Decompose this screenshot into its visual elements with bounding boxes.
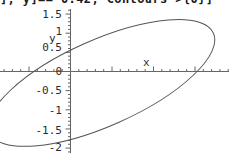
y-tick-label--1.5: -1.5 xyxy=(26,125,62,136)
y-tick-label-0.5: 0.5 xyxy=(30,42,62,53)
x-axis-label: x xyxy=(143,57,150,68)
y-axis-label: y xyxy=(49,33,56,44)
y-axis-ticks xyxy=(66,10,71,152)
y-tick-label-1: 1 xyxy=(30,26,62,37)
y-tick-label-0: 0 xyxy=(30,66,62,77)
contour-plot-screenshot: ], y]== 0.42, Contours->{0}] 1.5 1 0.5 0… xyxy=(0,0,229,154)
y-tick-label--0.5: -0.5 xyxy=(26,85,62,96)
y-tick-label--2: -2 xyxy=(26,142,62,153)
y-tick-label-1.5: 1.5 xyxy=(30,9,62,20)
y-tick-label--1: -1 xyxy=(26,105,62,116)
